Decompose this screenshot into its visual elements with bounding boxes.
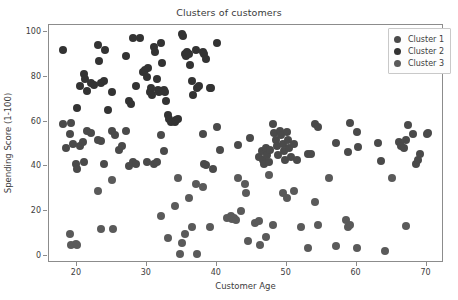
x-axis-tick-mark: [356, 262, 357, 266]
y-axis-tick-mark: [43, 31, 47, 32]
data-point: [111, 131, 119, 139]
data-point: [402, 136, 410, 144]
data-point: [290, 187, 298, 195]
data-point: [346, 221, 354, 229]
y-axis-tick-mark: [43, 255, 47, 256]
data-point: [314, 123, 322, 131]
x-axis-tick-mark: [76, 262, 77, 266]
data-point: [118, 142, 126, 150]
data-point: [59, 120, 67, 128]
y-axis-tick-label: 20: [15, 206, 41, 215]
data-point: [265, 158, 273, 166]
data-point: [344, 148, 352, 156]
data-point: [97, 137, 105, 145]
data-point: [269, 120, 277, 128]
data-point: [237, 207, 245, 215]
data-point: [179, 32, 187, 40]
data-point: [132, 82, 140, 90]
data-point: [66, 130, 74, 138]
data-point: [193, 250, 201, 258]
data-point: [171, 202, 179, 210]
data-point: [122, 52, 130, 60]
y-axis-tick-label: 100: [15, 26, 41, 35]
data-point: [269, 221, 277, 229]
data-point: [325, 174, 333, 182]
data-point: [314, 221, 322, 229]
data-point: [255, 217, 263, 225]
chart-title: Clusters of customers: [0, 7, 458, 18]
y-axis-tick-label: 0: [15, 251, 41, 260]
data-point: [158, 59, 166, 67]
data-point: [132, 160, 140, 168]
y-axis-tick-label: 40: [15, 161, 41, 170]
data-point: [178, 239, 186, 247]
legend-marker-icon: [394, 36, 401, 43]
data-point: [73, 241, 81, 249]
y-axis-label: Spending Score (1-100): [3, 93, 13, 194]
x-axis-tick-label: 70: [411, 268, 441, 277]
data-point: [62, 144, 70, 152]
data-point: [83, 87, 91, 95]
legend-item: Cluster 3: [394, 57, 444, 69]
data-point: [207, 84, 215, 92]
data-point: [424, 129, 432, 137]
data-point: [242, 189, 250, 197]
data-point: [181, 230, 189, 238]
data-point: [174, 115, 182, 123]
data-point: [234, 141, 242, 149]
data-point: [122, 127, 130, 135]
data-point: [162, 97, 170, 105]
data-point: [101, 46, 109, 54]
data-point: [404, 121, 412, 129]
data-point: [416, 150, 424, 158]
data-point: [402, 222, 410, 230]
data-point: [265, 171, 273, 179]
data-point: [283, 194, 291, 202]
data-point: [381, 247, 389, 255]
data-point: [202, 55, 210, 63]
data-point: [186, 61, 194, 69]
data-point: [297, 223, 305, 231]
x-axis-tick-label: 50: [271, 268, 301, 277]
data-point: [332, 242, 340, 250]
x-axis-tick-mark: [286, 262, 287, 266]
data-point: [185, 194, 193, 202]
data-point: [377, 157, 385, 165]
data-point: [100, 160, 108, 168]
data-point: [307, 150, 315, 158]
data-point: [80, 158, 88, 166]
data-point: [346, 119, 354, 127]
legend-item: Cluster 2: [394, 45, 444, 57]
x-axis-tick-label: 20: [61, 268, 91, 277]
data-point: [108, 176, 116, 184]
x-axis-tick-mark: [146, 262, 147, 266]
legend-item-label: Cluster 3: [408, 59, 444, 68]
data-point: [244, 237, 252, 245]
data-point: [174, 174, 182, 182]
data-point: [157, 39, 165, 47]
chart-legend: Cluster 1Cluster 2Cluster 3: [388, 28, 451, 74]
y-axis-tick-mark: [43, 165, 47, 166]
x-axis-label: Customer Age: [48, 281, 443, 291]
data-point: [59, 46, 67, 54]
data-point: [354, 143, 362, 151]
data-point: [388, 174, 396, 182]
data-point: [332, 139, 340, 147]
data-point: [353, 128, 361, 136]
data-point: [136, 34, 144, 42]
y-axis-tick-label: 80: [15, 71, 41, 80]
data-point: [79, 138, 87, 146]
y-axis-tick-label: 60: [15, 116, 41, 125]
scatter-chart-figure: Clusters of customers Spending Score (1-…: [0, 0, 458, 300]
data-point: [151, 48, 159, 56]
data-point: [87, 129, 95, 137]
data-point: [153, 158, 161, 166]
data-point: [73, 104, 81, 112]
legend-item-label: Cluster 1: [408, 35, 444, 44]
data-point: [213, 39, 221, 47]
data-point: [209, 165, 217, 173]
data-point: [108, 88, 116, 96]
x-axis-tick-label: 40: [201, 268, 231, 277]
data-point: [241, 180, 249, 188]
y-axis-tick-mark: [43, 76, 47, 77]
